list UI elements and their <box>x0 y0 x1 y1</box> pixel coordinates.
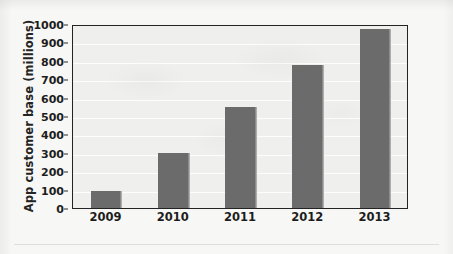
scanned-page: App customer base (millions) 01002003004… <box>0 0 453 254</box>
bar <box>91 191 123 208</box>
y-axis-tick-labels: 01002003004005006007008009001000 <box>32 25 68 209</box>
y-axis-tick-label: 500 <box>41 112 64 123</box>
bar <box>158 153 190 208</box>
x-axis-tick-label: 2009 <box>90 212 122 224</box>
y-axis-tick-label: 0 <box>56 204 64 215</box>
bar-series <box>73 26 407 208</box>
bar <box>225 107 257 208</box>
x-axis-tick-label: 2011 <box>224 212 256 224</box>
y-axis-tick-label: 900 <box>41 38 64 49</box>
y-axis-tick-label: 800 <box>41 56 64 67</box>
y-axis-tick-mark <box>64 117 68 118</box>
x-axis-tick-label: 2012 <box>291 212 323 224</box>
y-axis-tick-mark <box>64 61 68 62</box>
y-axis-tick-label: 600 <box>41 93 64 104</box>
y-axis-tick-mark <box>64 135 68 136</box>
y-axis-tick-mark <box>64 190 68 191</box>
y-axis-tick-mark <box>64 25 68 26</box>
y-axis-tick-label: 300 <box>41 148 64 159</box>
y-axis-tick-label: 1000 <box>33 20 64 31</box>
y-axis-tick-label: 700 <box>41 75 64 86</box>
page-rule-line <box>14 244 439 245</box>
y-axis-tick-label: 100 <box>41 185 64 196</box>
y-axis-tick-mark <box>64 209 68 210</box>
bar-chart-figure: App customer base (millions) 01002003004… <box>0 0 453 232</box>
y-axis-tick-mark <box>64 80 68 81</box>
x-axis-tick-label: 2013 <box>358 212 390 224</box>
bar <box>292 65 324 208</box>
plot-area <box>72 25 408 209</box>
x-axis-tick-labels: 20092010201120122013 <box>72 212 408 230</box>
y-axis-tick-label: 200 <box>41 167 64 178</box>
y-axis-tick-label: 400 <box>41 130 64 141</box>
y-axis-tick-mark <box>64 98 68 99</box>
y-axis-tick-mark <box>64 172 68 173</box>
y-axis-tick-mark <box>64 43 68 44</box>
x-axis-tick-label: 2010 <box>157 212 189 224</box>
bar <box>360 29 392 208</box>
y-axis-tick-mark <box>64 153 68 154</box>
